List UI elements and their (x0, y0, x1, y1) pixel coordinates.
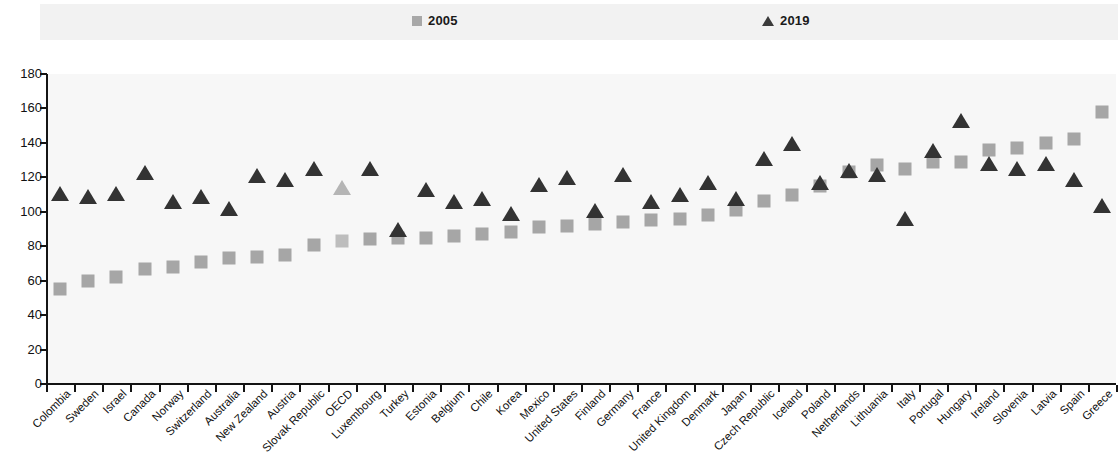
data-point-2005 (1039, 136, 1052, 149)
data-point-2019 (1065, 172, 1083, 187)
data-point-2019 (783, 136, 801, 151)
y-tick-label: 40 (0, 308, 42, 321)
x-category-label: Latvia (1029, 388, 1059, 418)
data-point-2005 (251, 250, 264, 263)
y-tick-label: 100 (0, 205, 42, 218)
data-point-2019 (79, 189, 97, 204)
chart-root: 2005 2019 180160140120100806040200 Colom… (0, 0, 1120, 468)
data-point-2019 (1093, 198, 1111, 213)
y-tick-label: 180 (0, 67, 42, 80)
x-category-label: Colombia (31, 388, 73, 430)
data-point-2019 (811, 175, 829, 190)
data-point-2005 (82, 274, 95, 287)
y-tick-label: 140 (0, 136, 42, 149)
data-point-2019 (333, 180, 351, 195)
square-marker-icon (412, 16, 422, 26)
data-point-2005 (54, 283, 67, 296)
data-point-2005 (1067, 133, 1080, 146)
data-point-2019 (642, 194, 660, 209)
data-point-2019 (502, 206, 520, 221)
data-point-2005 (110, 271, 123, 284)
data-point-2005 (701, 209, 714, 222)
data-point-2005 (1011, 142, 1024, 155)
data-point-2005 (786, 188, 799, 201)
data-point-2019 (896, 211, 914, 226)
legend-item-2019: 2019 (762, 14, 810, 27)
data-point-2005 (307, 238, 320, 251)
data-point-2019 (840, 163, 858, 178)
data-point-2019 (136, 165, 154, 180)
data-point-2005 (420, 231, 433, 244)
data-point-2019 (614, 167, 632, 182)
data-point-2005 (560, 219, 573, 232)
y-tick-label: 80 (0, 239, 42, 252)
data-point-2019 (445, 194, 463, 209)
data-point-2005 (758, 195, 771, 208)
data-point-2005 (1095, 105, 1108, 118)
data-point-2005 (955, 155, 968, 168)
data-point-2019 (417, 182, 435, 197)
y-tick-label: 120 (0, 170, 42, 183)
data-point-2019 (51, 186, 69, 201)
data-point-2019 (276, 172, 294, 187)
data-point-2005 (617, 216, 630, 229)
data-point-2019 (755, 151, 773, 166)
data-point-2005 (223, 252, 236, 265)
legend-label-2019: 2019 (780, 14, 810, 27)
y-tick-label: 20 (0, 343, 42, 356)
data-point-2005 (504, 226, 517, 239)
data-point-2019 (248, 168, 266, 183)
data-point-2005 (898, 162, 911, 175)
data-point-2019 (586, 203, 604, 218)
plot-area: 180160140120100806040200 (0, 66, 1120, 386)
x-category-label: Chile (469, 388, 496, 415)
legend-label-2005: 2005 (428, 14, 458, 27)
data-point-2019 (389, 222, 407, 237)
data-point-2019 (699, 175, 717, 190)
data-point-2019 (868, 167, 886, 182)
data-point-2005 (983, 143, 996, 156)
y-axis-line (46, 74, 48, 385)
data-point-2005 (335, 235, 348, 248)
data-point-2019 (107, 186, 125, 201)
x-axis-category-labels: ColombiaSwedenIsraelCanadaNorwaySwitzerl… (0, 388, 1120, 468)
x-category-label: Italy (895, 388, 918, 411)
data-point-2019 (980, 156, 998, 171)
x-category-label: Greece (1080, 388, 1115, 423)
data-point-2019 (924, 143, 942, 158)
legend-item-2005: 2005 (412, 14, 458, 27)
data-point-2005 (194, 255, 207, 268)
data-point-2019 (1037, 156, 1055, 171)
data-point-2019 (671, 187, 689, 202)
y-tick-label: 60 (0, 274, 42, 287)
triangle-marker-icon (762, 16, 774, 26)
data-point-2005 (166, 260, 179, 273)
data-point-2005 (645, 214, 658, 227)
data-point-2019 (473, 191, 491, 206)
data-point-2005 (363, 233, 376, 246)
data-point-2019 (727, 191, 745, 206)
data-point-2019 (192, 189, 210, 204)
y-tick-label: 160 (0, 101, 42, 114)
data-point-2005 (476, 228, 489, 241)
chart-legend: 2005 2019 (40, 4, 1118, 40)
data-point-2005 (448, 229, 461, 242)
data-point-2019 (1008, 161, 1026, 176)
data-point-2019 (952, 113, 970, 128)
data-point-2019 (530, 177, 548, 192)
data-point-2019 (220, 201, 238, 216)
data-point-2019 (305, 161, 323, 176)
data-point-2019 (164, 194, 182, 209)
x-category-label: Iceland (771, 388, 805, 422)
data-point-2005 (532, 221, 545, 234)
data-point-2005 (279, 248, 292, 261)
data-point-2005 (673, 212, 686, 225)
data-point-2005 (138, 262, 151, 275)
data-point-2019 (361, 161, 379, 176)
data-point-2005 (589, 217, 602, 230)
data-point-2019 (558, 170, 576, 185)
